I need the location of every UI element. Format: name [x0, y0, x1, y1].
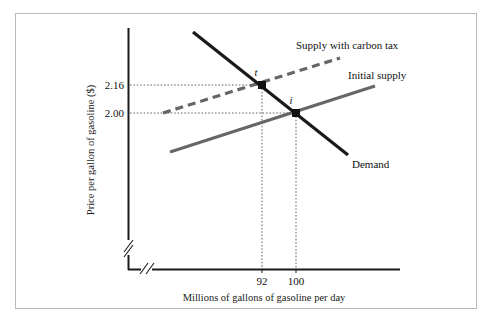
x-tick-label-92: 92	[257, 275, 268, 287]
equilibrium-initial-marker	[292, 109, 300, 117]
gridlines-group	[130, 85, 296, 269]
y-axis-title: Price per gallon of gasoline ($)	[85, 84, 97, 215]
x-tick-label-100: 100	[288, 275, 305, 287]
y-tick-label-2-16: 2.16	[105, 79, 125, 91]
equilibrium-with-tax-label: t	[255, 67, 259, 78]
equilibrium-with-tax-marker	[258, 81, 266, 89]
supply-demand-chart: 2.16 2.00 92 100 t i Supply with carbon …	[0, 0, 494, 326]
equilibrium-initial-label: i	[290, 95, 293, 106]
x-axis-title: Millions of gallons of gasoline per day	[183, 292, 346, 303]
figure-root: 2.16 2.00 92 100 t i Supply with carbon …	[0, 0, 494, 326]
axes-group	[128, 28, 400, 270]
supply-with-carbon-tax-label: Supply with carbon tax	[296, 39, 399, 51]
demand-label: Demand	[352, 158, 390, 170]
y-tick-label-2-00: 2.00	[105, 107, 125, 119]
initial-supply-label: Initial supply	[348, 69, 407, 81]
